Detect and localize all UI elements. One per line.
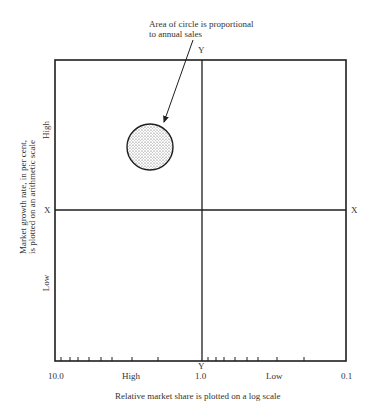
growth-share-matrix bbox=[0, 0, 376, 417]
annotation-arrow bbox=[164, 40, 193, 122]
x-axis-high-label: High bbox=[122, 371, 140, 381]
x-line-label-right: X bbox=[351, 205, 358, 215]
x-tick-label-1: 1.0 bbox=[195, 371, 206, 381]
x-tick-label-10: 10.0 bbox=[48, 371, 64, 381]
annotation-line-2: to annual sales bbox=[149, 29, 202, 39]
x-tick-label-0-1: 0.1 bbox=[341, 371, 352, 381]
y-axis-high-label: High bbox=[41, 114, 51, 146]
y-line-label-bottom: Y bbox=[198, 361, 205, 371]
business-unit-circle bbox=[127, 124, 173, 170]
y-line-label-top: Y bbox=[198, 45, 205, 55]
x-axis-title: Relative market share is plotted on a lo… bbox=[115, 391, 280, 401]
x-line-label-left: X bbox=[44, 205, 51, 215]
x-axis-low-label: Low bbox=[266, 371, 283, 381]
y-axis-title-line-2: is plotted on an arithmetic scale bbox=[27, 122, 37, 272]
y-axis-low-label: Low bbox=[41, 267, 51, 299]
annotation-line-1: Area of circle is proportional bbox=[149, 19, 253, 29]
